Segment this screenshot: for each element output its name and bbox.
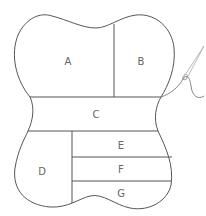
section-label-d: D (38, 166, 46, 177)
section-label-f: F (118, 164, 124, 175)
needle-icon (182, 46, 204, 81)
section-label-e: E (118, 140, 124, 151)
section-label-c: C (93, 109, 100, 120)
section-label-g: G (117, 188, 125, 199)
pattern-diagram: A B C D E F G (0, 0, 206, 216)
section-label-a: A (65, 56, 72, 67)
section-label-b: B (138, 56, 145, 67)
thread (161, 76, 204, 97)
